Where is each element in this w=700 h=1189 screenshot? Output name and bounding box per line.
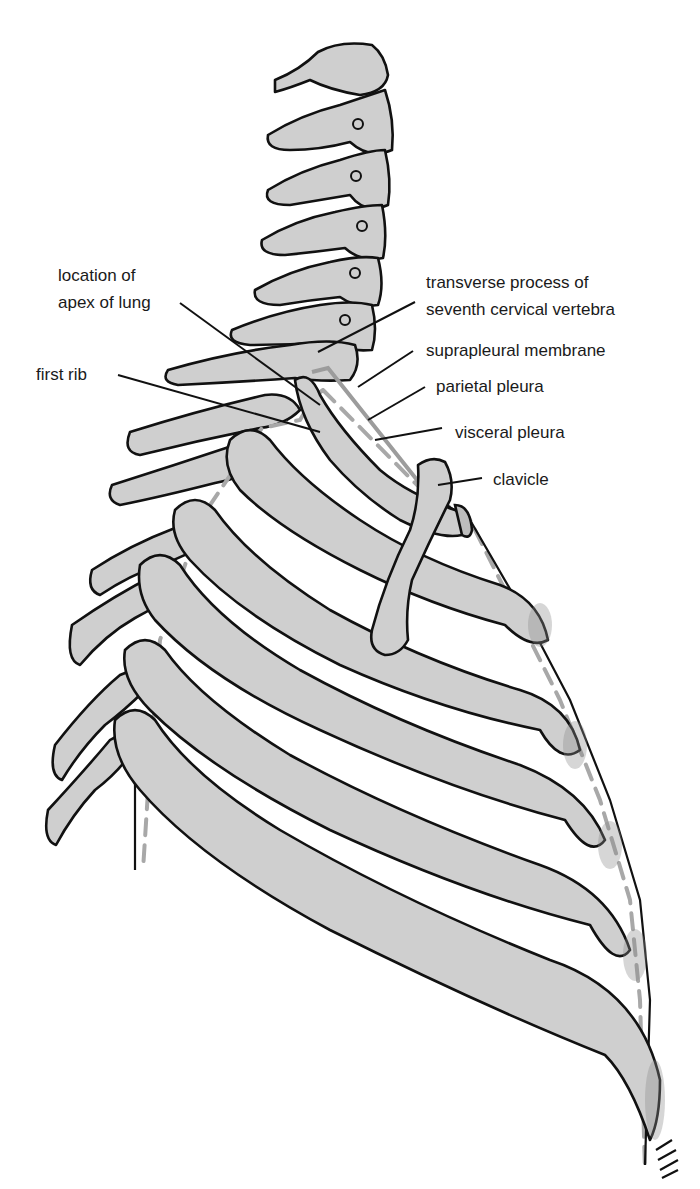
label-apex-line2: apex of lung bbox=[58, 292, 151, 313]
anatomy-illustration bbox=[0, 0, 700, 1189]
label-transverse-line1: transverse process of bbox=[426, 272, 589, 293]
label-first-rib: first rib bbox=[36, 364, 87, 385]
label-suprapleural-membrane: suprapleural membrane bbox=[426, 340, 606, 361]
label-visceral-pleura: visceral pleura bbox=[455, 422, 565, 443]
costal-hatch bbox=[656, 1140, 678, 1178]
label-parietal-pleura: parietal pleura bbox=[436, 376, 544, 397]
label-clavicle: clavicle bbox=[493, 469, 549, 490]
cervical-vertebrae bbox=[166, 44, 393, 385]
anterior-ribs bbox=[114, 377, 665, 1140]
label-transverse-line2: seventh cervical vertebra bbox=[426, 299, 615, 320]
label-apex-line1: location of bbox=[58, 265, 136, 286]
